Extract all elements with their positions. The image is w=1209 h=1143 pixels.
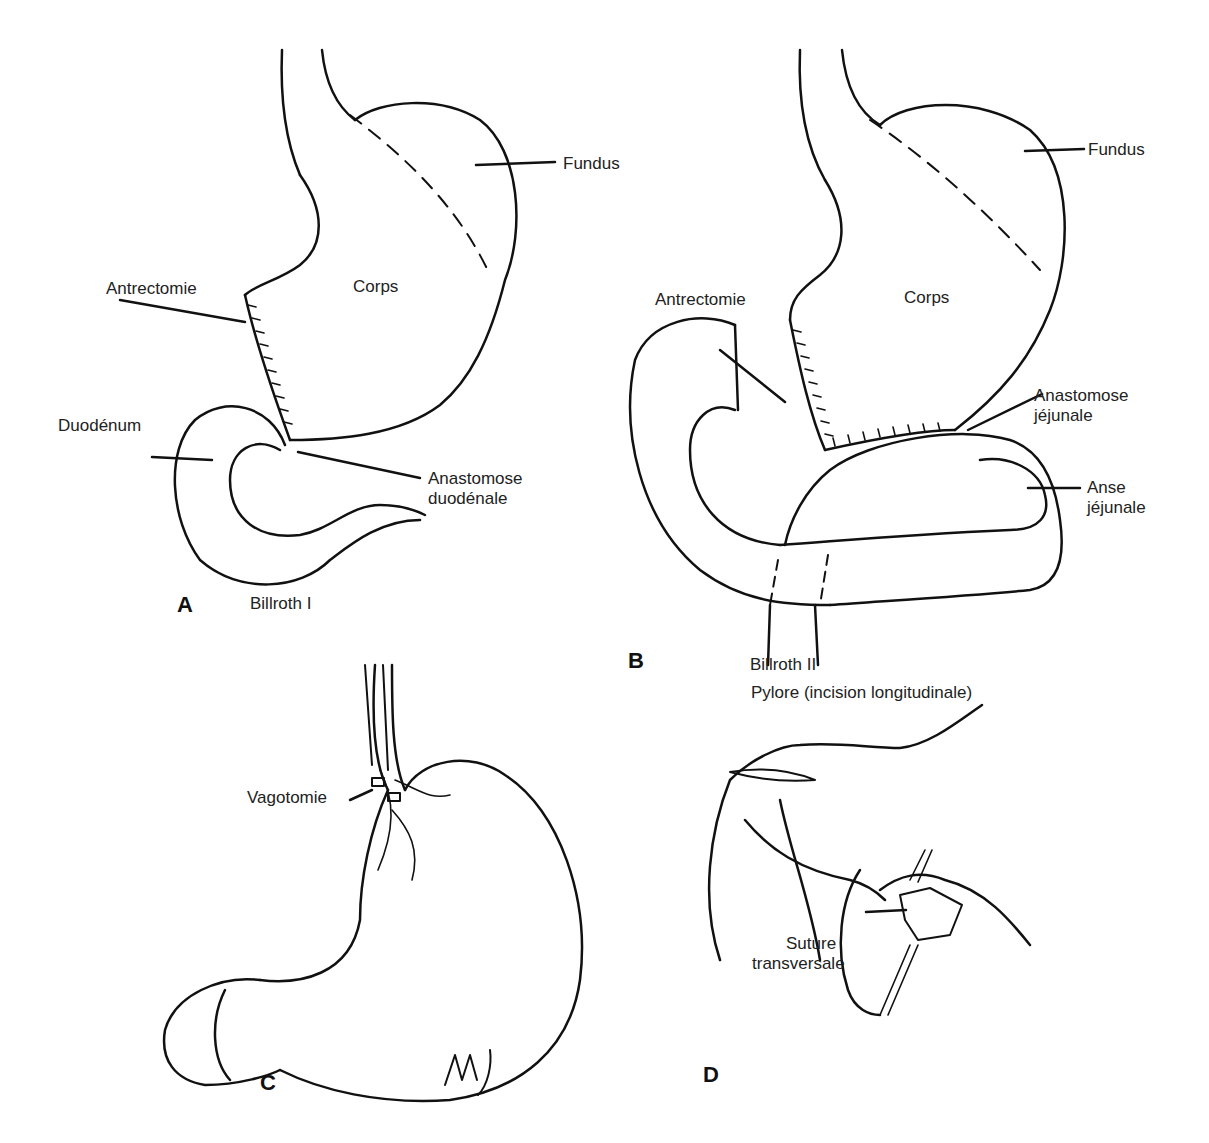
label-b-antrectomie: Antrectomie	[655, 290, 746, 310]
label-b-anastomose-line1: Anastomose	[1034, 386, 1129, 406]
label-d-suture-line2: transversale	[752, 954, 845, 974]
label-b-fundus: Fundus	[1088, 140, 1145, 160]
panel-b-drawing	[630, 50, 1084, 665]
panel-letter-a: A	[177, 592, 193, 618]
label-d-suture-line1: Suture	[786, 934, 836, 954]
label-a-corps: Corps	[353, 277, 398, 297]
label-b-anse-line1: Anse	[1087, 478, 1126, 498]
panel-letter-d: D	[703, 1062, 719, 1088]
panel-letter-c: C	[260, 1070, 276, 1096]
label-a-antrectomie: Antrectomie	[106, 279, 197, 299]
label-a-fundus: Fundus	[563, 154, 620, 174]
label-b-anastomose-line2: jéjunale	[1034, 406, 1093, 426]
label-c-vagotomie: Vagotomie	[247, 788, 327, 808]
label-b-anse-line2: jéjunale	[1087, 498, 1146, 518]
caption-billroth-1: Billroth I	[250, 594, 311, 614]
label-a-anastomose-line1: Anastomose	[428, 469, 523, 489]
label-d-pylore: Pylore (incision longitudinale)	[751, 683, 972, 703]
label-a-anastomose-line2: duodénale	[428, 489, 507, 509]
panel-c-drawing	[164, 665, 582, 1101]
panel-letter-b: B	[628, 648, 644, 674]
label-a-duodenum: Duodénum	[58, 416, 141, 436]
caption-billroth-2: Billroth II	[750, 655, 816, 675]
label-b-corps: Corps	[904, 288, 949, 308]
